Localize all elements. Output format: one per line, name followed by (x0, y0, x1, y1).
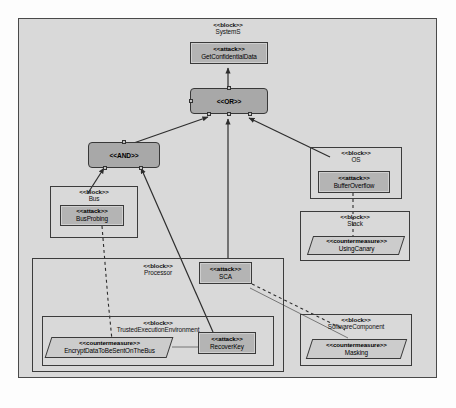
attack-name: SCA (219, 273, 232, 280)
gate-label: <<AND>> (110, 152, 139, 159)
block-name: Stack (301, 221, 409, 228)
gate-port (227, 112, 231, 116)
block-name: Bus (51, 196, 137, 203)
attack-bufferoverflow[interactable]: <<attack>> BufferOverflow (318, 171, 390, 193)
block-softwarecomponent-title: <<block>> SoftwareComponent (301, 317, 411, 331)
attack-name: RecoverKey (210, 343, 244, 350)
countermeasure-name: Masking (326, 349, 387, 356)
gate-port (227, 86, 231, 90)
gate-port (207, 112, 211, 116)
block-name: SoftwareComponent (301, 324, 411, 331)
gate-port (103, 166, 107, 170)
countermeasure-masking-label: <<countermeasure>> Masking (326, 342, 387, 356)
countermeasure-encryptdata-label: <<countermeasure>> EncryptDataToBeSentOn… (64, 340, 155, 354)
stereotype-label: <<block>> (311, 150, 401, 157)
countermeasure-name: EncryptDataToBeSentOnTheBus (64, 347, 155, 354)
gate-and[interactable]: <<AND>> (88, 142, 160, 168)
stereotype-label: <<attack>> (76, 208, 107, 215)
attack-recoverkey[interactable]: <<attack>> RecoverKey (198, 332, 256, 354)
countermeasure-name: UsingCanary (326, 245, 387, 252)
block-name: OS (311, 157, 401, 164)
stereotype-label: <<attack>> (211, 336, 242, 343)
stereotype-label: <<attack>> (210, 266, 241, 273)
gate-port (248, 112, 252, 116)
attack-name: BusProbing (76, 215, 108, 222)
countermeasure-usingcanary[interactable]: <<countermeasure>> UsingCanary (307, 236, 405, 255)
stereotype-label: <<countermeasure>> (326, 342, 387, 349)
gate-port (139, 166, 143, 170)
stereotype-label: <<attack>> (213, 46, 244, 53)
block-stack-title: <<block>> Stack (301, 214, 409, 228)
attack-getconfidentialdata[interactable]: <<attack>> GetConfidentialData (190, 42, 268, 64)
diagram-canvas: the attack tree is refined into counterm… (0, 0, 456, 408)
block-bus-title: <<block>> Bus (51, 189, 137, 203)
stereotype-label: <<block>> (43, 320, 273, 327)
stereotype-label: <<block>> (301, 317, 411, 324)
stereotype-label: <<block>> (301, 214, 409, 221)
attack-name: BufferOverflow (334, 182, 375, 189)
stereotype-label: <<attack>> (338, 175, 369, 182)
block-os-title: <<block>> OS (311, 150, 401, 164)
countermeasure-usingcanary-label: <<countermeasure>> UsingCanary (326, 238, 387, 252)
gate-port (189, 99, 193, 103)
gate-or[interactable]: <<OR>> (190, 88, 268, 114)
attack-sca[interactable]: <<attack>> SCA (199, 262, 252, 284)
stereotype-label: <<block>> (51, 189, 137, 196)
countermeasure-encryptdatatobesentonthebus[interactable]: <<countermeasure>> EncryptDataToBeSentOn… (45, 337, 174, 358)
gate-port (122, 140, 126, 144)
attack-busprobing[interactable]: <<attack>> BusProbing (60, 205, 124, 226)
gate-label: <<OR>> (217, 98, 242, 105)
attack-name: GetConfidentialData (201, 53, 257, 60)
countermeasure-masking[interactable]: <<countermeasure>> Masking (306, 339, 407, 359)
